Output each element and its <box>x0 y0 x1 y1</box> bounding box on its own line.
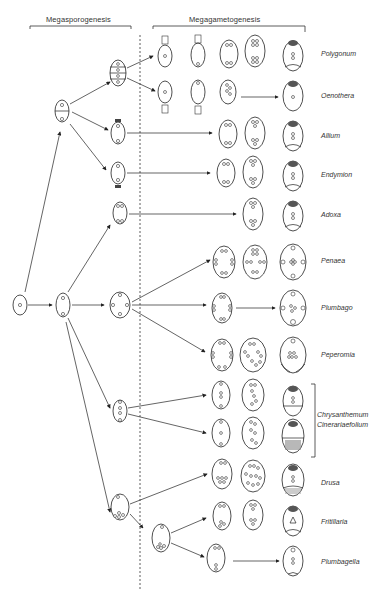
label-plumbago: Plumbago <box>321 304 353 311</box>
label-polygonum: Polygonum <box>321 50 356 57</box>
row-chrysanthemum-upper <box>212 379 303 416</box>
chrysanthemum-bracket <box>311 384 315 457</box>
cell-drusa <box>111 494 129 520</box>
row-drusa <box>212 459 304 496</box>
label-adoxa: Adoxa <box>321 211 341 218</box>
label-peperomia: Peperomia <box>321 351 355 358</box>
label-plumbagella: Plumbagella <box>321 558 360 565</box>
upper-dyad-cell <box>55 100 69 122</box>
label-endymion: Endymion <box>321 171 352 178</box>
label-fritillaria: Fritillaria <box>321 518 347 525</box>
mother-cell <box>13 295 27 315</box>
row-adoxa <box>243 198 303 231</box>
label-chrysanthemum: Chrysanthemum <box>317 411 368 418</box>
label-drusa: Drusa <box>321 479 340 486</box>
embryo-sac-development-diagram: Megasporogenesis Megagametogenesis <box>0 0 385 595</box>
row-allium <box>219 117 303 151</box>
tetrad-cell-polygonum <box>110 60 126 86</box>
row-polygonum <box>158 35 303 71</box>
cell-four-nucleate <box>110 292 130 318</box>
cell-fritillaria-precursor <box>152 524 170 552</box>
diagram-canvas <box>0 0 385 595</box>
label-cinerariaefolium: Cinerariaefolium <box>317 421 368 428</box>
row-peperomia <box>211 337 306 373</box>
row-chrysanthemum-lower <box>212 417 304 453</box>
label-penaea: Penaea <box>321 257 345 264</box>
label-oenothera: Oenothera <box>321 92 354 99</box>
megasporogenesis-bracket <box>30 26 131 29</box>
cell-allium <box>111 119 125 144</box>
row-plumbago <box>212 290 306 326</box>
cell-chrysanthemum <box>113 400 127 422</box>
row-fritillaria <box>213 500 303 536</box>
cell-adoxa <box>113 202 127 224</box>
row-oenothera <box>158 80 303 114</box>
megagametogenesis-bracket <box>153 26 305 32</box>
row-penaea <box>213 244 306 280</box>
label-allium: Allium <box>321 132 340 139</box>
row-endymion <box>217 156 303 191</box>
cell-endymion <box>111 162 125 188</box>
row-plumbagella <box>207 544 303 576</box>
stage2-cell <box>56 293 70 317</box>
